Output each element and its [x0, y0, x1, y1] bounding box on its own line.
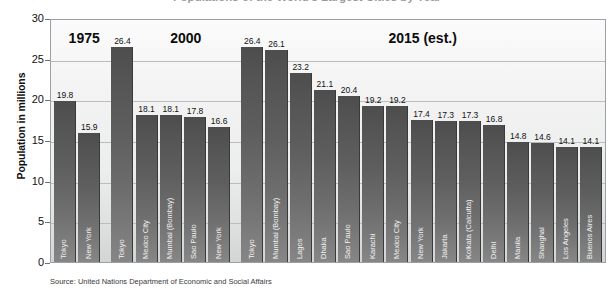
bar-category-label: Sao Paulo [343, 224, 352, 259]
bar-value-label: 14.1 [571, 136, 606, 146]
bar-slot: 15.9New York [78, 19, 102, 262]
bar-slot: 17.8Sao Paulo [184, 19, 208, 262]
bar-category-label: Mexico City [392, 220, 401, 259]
population-bar-chart-figure: Populations of the World's Largest Citie… [0, 0, 614, 298]
bar-category-label: Mexico City [141, 220, 150, 259]
y-tick-mark [45, 263, 50, 264]
bar-category-label: Kolkata (Calcutta) [464, 199, 473, 259]
bar-slot: 18.1Mexico City [136, 19, 160, 262]
bar-category-label: Karachi [368, 234, 377, 259]
bar-category-label: New York [416, 227, 425, 259]
bar-slot: 17.4New York [411, 19, 435, 262]
y-tick-label: 5 [0, 215, 44, 227]
bar-slot: 26.1Mumbai (Bombay) [265, 19, 289, 262]
bar-category-label: Buenos Aires [585, 215, 594, 259]
y-tick-label: 20 [0, 93, 44, 105]
chart-title-text: Populations of the World's Largest Citie… [0, 0, 614, 3]
plot-area: 19.8Tokyo15.9New York26.4Tokyo18.1Mexico… [50, 19, 606, 263]
bar-slot: 16.6New York [208, 19, 232, 262]
bar-category-label: Delhi [489, 242, 498, 259]
bar-category-label: Mumbai (Bombay) [165, 198, 174, 259]
era-heading: 2015 (est.) [241, 30, 604, 46]
era-heading: 1975 [60, 30, 108, 46]
bar-category-label: Tokyo [59, 239, 68, 259]
bar-slot: 23.2Lagos [290, 19, 314, 262]
bar-slot: 26.4Tokyo [241, 19, 265, 262]
bar-category-label: Manila [513, 237, 522, 259]
bar-slot: 21.1Dhaka [314, 19, 338, 262]
bar-category-label: New York [214, 227, 223, 259]
bar-category-label: Tokyo [117, 239, 126, 259]
bar-category-label: Mumbai (Bombay) [271, 198, 280, 259]
y-tick-label: 0 [0, 256, 44, 268]
bar-slot: 14.1Buenos Aires [580, 19, 604, 262]
bar-category-label: Sao Paulo [189, 224, 198, 259]
bar[interactable] [290, 73, 312, 262]
bar-slot: 19.8Tokyo [54, 19, 78, 262]
bar-value-label: 15.9 [69, 122, 109, 132]
y-tick-label: 25 [0, 53, 44, 65]
bar-category-label: Tokyo [247, 239, 256, 259]
bar-slot: 19.2Mexico City [386, 19, 410, 262]
bar-category-label: Dhaka [319, 237, 328, 259]
era-heading: 2000 [125, 30, 246, 46]
chart-title-clipped: Populations of the World's Largest Citie… [0, 0, 614, 3]
y-tick-label: 30 [0, 12, 44, 24]
y-tick-label: 10 [0, 175, 44, 187]
bar-category-label: Shanghai [537, 227, 546, 259]
bar-slot: 17.3Jakarta [435, 19, 459, 262]
bar-slot: 17.3Kolkata (Calcutta) [459, 19, 483, 262]
bar-slot: 26.4Tokyo [111, 19, 135, 262]
bar-value-label: 16.6 [199, 116, 239, 126]
bar[interactable] [111, 47, 133, 262]
bar-slot: 19.2Karachi [362, 19, 386, 262]
bar-category-label: New York [84, 227, 93, 259]
bar-slot: 18.1Mumbai (Bombay) [160, 19, 184, 262]
bar-category-label: Lagos [295, 239, 304, 259]
source-note: Source: United Nations Department of Eco… [50, 277, 272, 286]
bar-slot: 20.4Sao Paulo [338, 19, 362, 262]
bar[interactable] [241, 47, 263, 262]
bar-category-label: Los Angeles [561, 218, 570, 259]
y-tick-label: 15 [0, 134, 44, 146]
bar-category-label: Jakarta [440, 234, 449, 259]
